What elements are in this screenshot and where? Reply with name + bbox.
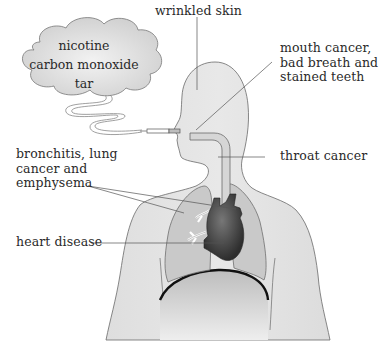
cloud-label-nicotine: nicotine: [14, 38, 154, 53]
label-wrinkled-skin: wrinkled skin: [155, 4, 242, 19]
label-mouth-cancer: mouth cancer, bad breath and stained tee…: [280, 41, 378, 85]
smoking-effects-diagram: nicotine carbon monoxide tar wrinkled sk…: [0, 0, 382, 353]
cloud-label-carbon-monoxide: carbon monoxide: [14, 57, 154, 72]
label-heart-disease: heart disease: [16, 235, 102, 250]
cloud-label-tar: tar: [14, 76, 154, 91]
label-throat-cancer: throat cancer: [280, 149, 367, 164]
label-bronchitis-lung-cancer-emphysema: bronchitis, lung cancer and emphysema: [16, 147, 118, 191]
cigarette: [140, 129, 180, 133]
